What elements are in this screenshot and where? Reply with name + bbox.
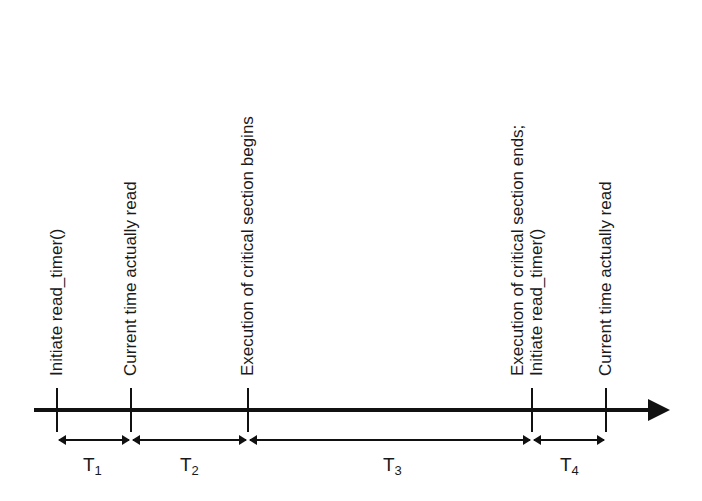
interval-label-t3: T3 bbox=[383, 454, 402, 478]
interval-label-t2: T2 bbox=[180, 454, 199, 478]
event-label-initiate-read-timer-2: Initiate read_timer() bbox=[528, 229, 546, 376]
axis-arrowhead-icon bbox=[648, 399, 670, 421]
event-label-current-time-read-2: Current time actually read bbox=[597, 181, 615, 376]
interval-label-t1: T1 bbox=[83, 454, 102, 478]
event-label-current-time-read-1: Current time actually read bbox=[122, 181, 140, 376]
event-label-critical-section-begins: Execution of critical section begins bbox=[239, 116, 257, 376]
interval-label-t4: T4 bbox=[560, 454, 579, 478]
event-label-initiate-read-timer: Initiate read_timer() bbox=[48, 229, 66, 376]
event-label-critical-section-ends: Execution of critical section ends; bbox=[509, 125, 527, 376]
